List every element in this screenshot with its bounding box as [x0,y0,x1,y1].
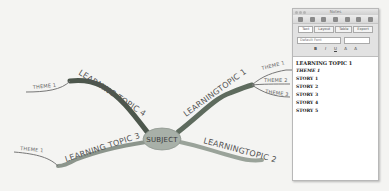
size-select[interactable] [344,37,370,44]
branch-topic-3-theme-1[interactable] [14,152,58,166]
outline-item[interactable]: STORY 1 [296,75,378,83]
notes-outline[interactable]: LEARNING TOPIC 1 THEME 1 STORY 1 STORY 2… [293,57,378,115]
pencil-icon[interactable] [298,17,303,22]
panel-titlebar[interactable]: Notes [293,9,378,15]
panel-title: Notes [330,9,342,14]
notes-icon[interactable] [310,17,315,22]
topic-4-theme-1-label: THEME 1 [31,82,56,91]
panel-tabs: Text Layout Table Export [293,24,378,35]
tab-layout[interactable]: Layout [314,26,334,33]
format-controls: Default Font B I U A A [293,35,378,57]
bold-button[interactable]: B [312,46,319,51]
close-button[interactable] [295,11,298,14]
minimize-button[interactable] [299,11,302,14]
person-icon[interactable] [345,17,350,22]
outline-item[interactable]: THEME 1 [296,67,378,75]
outline-item[interactable]: STORY 3 [296,91,378,99]
zoom-button[interactable] [303,11,306,14]
topic-4-label: LEARNING TOPIC 4 [77,68,148,118]
outline-item[interactable]: STORY 2 [296,83,378,91]
topic-3-label: LEARNING TOPIC 3 [64,131,141,164]
highlight-color-button[interactable]: A [352,46,359,51]
italic-button[interactable]: I [322,46,329,51]
topic-1-theme-2-label: THEME 2 [263,77,288,83]
outline-item[interactable]: STORY 5 [296,107,378,115]
move-icon[interactable] [356,17,361,22]
subject-label: SUBJECT [146,136,178,144]
outline-item[interactable]: LEARNING TOPIC 1 [296,59,378,67]
tab-export[interactable]: Export [353,26,372,33]
notes-panel[interactable]: Notes Text Layout Table Export Default F… [292,8,379,181]
outline-item[interactable]: STORY 4 [296,99,378,107]
link-icon[interactable] [333,17,338,22]
image-icon[interactable] [368,17,373,22]
tab-text[interactable]: Text [298,26,313,33]
topic-1-theme-1-label: THEME 1 [260,59,285,71]
attach-icon[interactable] [321,17,326,22]
topic-1-label: LEARNINGTOPIC 1 [182,67,248,119]
underline-button[interactable]: U [332,46,339,51]
topic-3-theme-1-label: THEME 1 [19,145,44,154]
panel-toolbar [293,15,378,24]
text-color-button[interactable]: A [342,46,349,51]
branch-topic-1-theme-2[interactable] [252,84,290,85]
font-select[interactable]: Default Font [297,37,341,44]
tab-table[interactable]: Table [335,26,352,33]
